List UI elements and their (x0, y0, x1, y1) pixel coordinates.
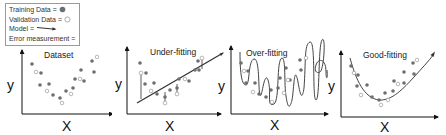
error-bars (141, 58, 202, 103)
y-axis-label: y (328, 78, 335, 94)
y-axis-label: y (7, 77, 14, 93)
good-fitting-plot (334, 0, 446, 135)
panel-title-under-fitting: Under-fitting (150, 47, 196, 57)
under-fitting-plot (112, 0, 224, 135)
panel-title-dataset: Dataset (44, 50, 73, 60)
panel-title-over-fitting: Over-fitting (246, 48, 288, 58)
dataset-plot (0, 0, 112, 135)
panel-over-fitting: Over-fitting y X (224, 0, 334, 135)
model-curve (350, 54, 434, 100)
training-points (30, 59, 96, 100)
validation-points (34, 55, 99, 105)
panel-title-good-fitting: Good-fitting (363, 50, 407, 60)
y-axis-label: y (218, 78, 225, 94)
panel-dataset: Dataset y X (0, 0, 112, 135)
x-axis-label: X (62, 118, 71, 134)
x-axis-label: X (165, 118, 174, 134)
over-fitting-plot (224, 0, 334, 135)
x-axis-label: X (380, 119, 389, 135)
x-axis-label: X (270, 117, 279, 133)
panel-good-fitting: Good-fitting y X (334, 0, 446, 135)
y-axis-label: y (115, 76, 122, 92)
panel-under-fitting: Under-fitting y X (112, 0, 224, 135)
